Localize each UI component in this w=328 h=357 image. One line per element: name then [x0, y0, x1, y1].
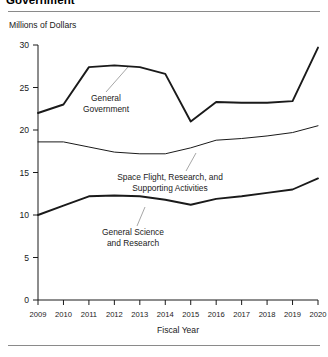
x-tick-label: 2014 — [157, 310, 174, 319]
figure-container: Government Millions of Dollars 051015202… — [0, 0, 328, 357]
leader-line-3 — [137, 207, 145, 226]
x-tick-label: 2016 — [208, 310, 225, 319]
y-tick-label: 15 — [19, 168, 29, 178]
x-tick-label: 2009 — [30, 310, 47, 319]
bottom-divider — [8, 345, 320, 346]
y-tick-label: 5 — [24, 253, 29, 263]
x-tick-label: 2015 — [182, 310, 199, 319]
y-tick-label: 0 — [24, 295, 29, 305]
series-label-2-line2: Supporting Activities — [132, 183, 207, 193]
leader-line-1 — [106, 67, 128, 92]
series-label-2: Space Flight, Research, and — [117, 172, 223, 182]
series-line-1 — [38, 48, 318, 122]
series-label-group: GeneralGovernmentSpace Flight, Research,… — [83, 93, 223, 248]
x-tick-label: 2020 — [310, 310, 327, 319]
y-tick-label: 20 — [19, 125, 29, 135]
leader-line-2 — [186, 153, 196, 171]
leader-line-group — [106, 67, 196, 226]
line-chart: 051015202530 200920102011201220132014201… — [0, 0, 328, 357]
x-tick-label: 2013 — [131, 310, 148, 319]
y-tick-label: 10 — [19, 210, 29, 220]
x-axis-group: 2009201020112012201320142015201620172018… — [30, 300, 327, 319]
x-tick-label: 2017 — [233, 310, 250, 319]
y-tick-label: 25 — [19, 83, 29, 93]
x-tick-label: 2019 — [284, 310, 301, 319]
series-label-1: General — [91, 93, 121, 103]
x-axis-title: Fiscal Year — [157, 325, 199, 335]
y-tick-group: 051015202530 — [19, 40, 38, 305]
y-tick-label: 30 — [19, 40, 29, 50]
x-tick-group: 2009201020112012201320142015201620172018… — [30, 300, 327, 319]
x-tick-label: 2010 — [55, 310, 72, 319]
series-label-3-line2: and Research — [107, 238, 159, 248]
y-axis-group: 051015202530 — [19, 40, 38, 305]
series-line-2 — [38, 126, 318, 154]
x-tick-label: 2011 — [81, 310, 97, 319]
x-tick-label: 2018 — [259, 310, 276, 319]
series-label-1-line2: Government — [83, 104, 130, 114]
x-tick-label: 2012 — [106, 310, 123, 319]
series-label-3: General Science — [102, 227, 164, 237]
